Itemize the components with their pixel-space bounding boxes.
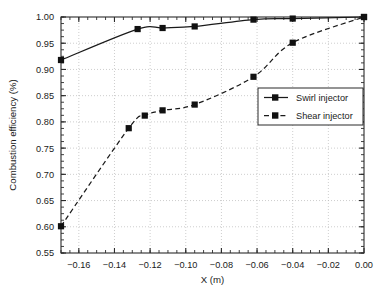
y-tick-label: 0.95: [36, 39, 54, 49]
data-point-marker: [58, 57, 64, 63]
y-tick-label: 0.85: [36, 91, 54, 101]
y-tick-label: 0.60: [36, 222, 54, 232]
data-point-marker: [290, 40, 296, 46]
data-point-marker: [250, 17, 256, 23]
y-tick-label: 0.55: [36, 248, 54, 258]
y-tick-label: 0.65: [36, 196, 54, 206]
data-point-marker: [192, 23, 198, 29]
y-tick-label: 0.90: [36, 65, 54, 75]
y-axis-title: Combustion efficiency (%): [7, 79, 18, 190]
data-point-marker: [159, 107, 165, 113]
data-point-marker: [192, 101, 198, 107]
legend-swatch-swirl-marker: [272, 94, 278, 100]
legend-label-shear-injector: Shear injector: [296, 111, 353, 121]
x-tick-label: −0.12: [138, 260, 161, 270]
data-point-marker: [250, 74, 256, 80]
x-axis-title: X (m): [201, 274, 224, 285]
x-tick-label: 0.00: [355, 260, 373, 270]
combustion-efficiency-line-chart: −0.16−0.14−0.12−0.10−0.08−0.06−0.04−0.02…: [0, 0, 384, 305]
x-tick-label: −0.10: [174, 260, 197, 270]
x-tick-label: −0.06: [245, 260, 268, 270]
data-point-marker: [58, 223, 64, 229]
y-tick-label: 0.70: [36, 170, 54, 180]
data-point-marker: [361, 14, 367, 20]
legend-swatch-shear-marker: [272, 112, 278, 118]
x-axis-tick-labels: −0.16−0.14−0.12−0.10−0.08−0.06−0.04−0.02…: [67, 260, 373, 270]
x-tick-label: −0.02: [317, 260, 340, 270]
y-tick-label: 0.75: [36, 144, 54, 154]
data-point-marker: [135, 26, 141, 32]
data-point-marker: [126, 125, 132, 131]
x-tick-label: −0.08: [210, 260, 233, 270]
data-point-marker: [159, 25, 165, 31]
x-tick-label: −0.04: [281, 260, 304, 270]
x-tick-label: −0.14: [103, 260, 126, 270]
data-point-marker: [290, 15, 296, 21]
y-tick-label: 0.80: [36, 117, 54, 127]
chart-figure: −0.16−0.14−0.12−0.10−0.08−0.06−0.04−0.02…: [0, 0, 384, 305]
legend-label-swirl-injector: Swirl injector: [296, 93, 348, 103]
y-tick-label: 1.00: [36, 12, 54, 22]
chart-legend[interactable]: Swirl injector Shear injector: [258, 88, 363, 125]
data-point-marker: [142, 113, 148, 119]
x-tick-label: −0.16: [67, 260, 90, 270]
